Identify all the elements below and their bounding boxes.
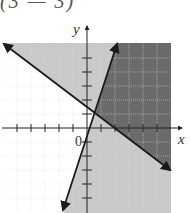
y-axis-label: y [71,21,80,37]
x-axis-label: x [177,131,185,147]
origin-label: 0 [75,134,82,149]
inequality-graph: y x 0 [0,0,190,213]
